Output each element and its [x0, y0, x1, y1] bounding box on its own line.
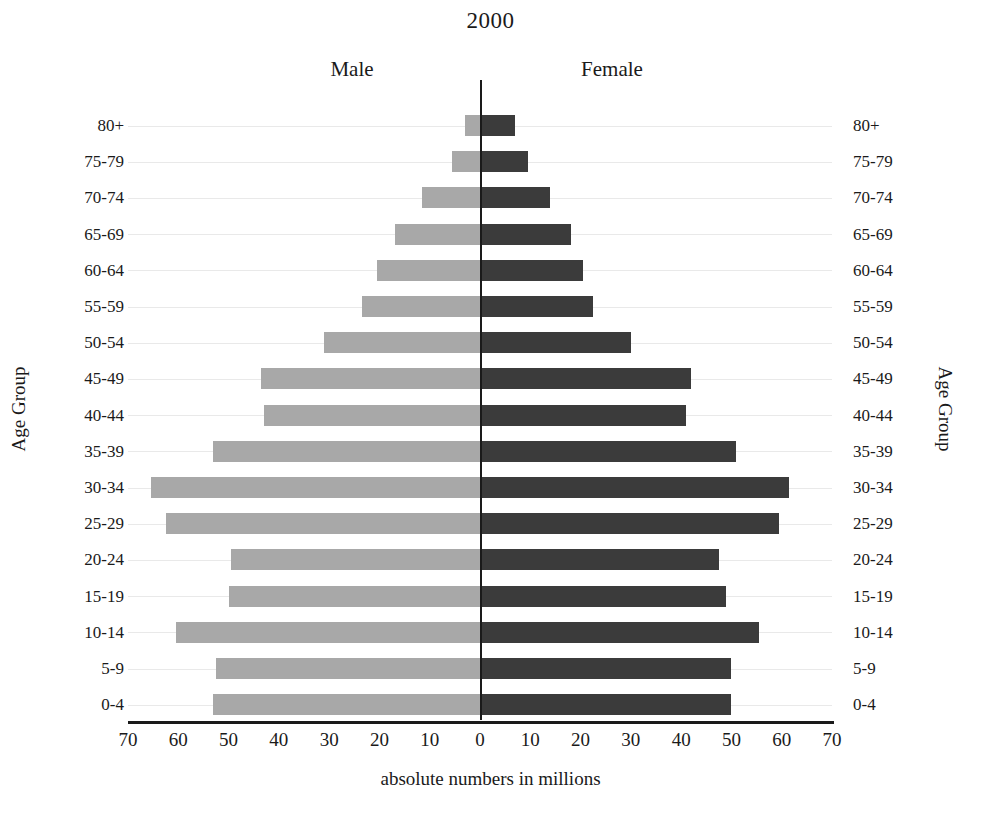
x-tick-label: 10 [505, 729, 555, 751]
bar-male-10-14 [176, 622, 480, 643]
category-label-left-75-79: 75-79 [84, 153, 124, 170]
category-label-right-10-14: 10-14 [853, 624, 893, 641]
bar-female-45-49 [480, 368, 691, 389]
category-label-right-30-34: 30-34 [853, 479, 893, 496]
bar-female-10-14 [480, 622, 759, 643]
category-label-right-45-49: 45-49 [853, 370, 893, 387]
x-tick-label: 40 [254, 729, 304, 751]
bar-female-20-24 [480, 549, 719, 570]
bar-male-40-44 [264, 405, 480, 426]
x-tick-label: 30 [606, 729, 656, 751]
category-label-left-70-74: 70-74 [84, 189, 124, 206]
bar-male-60-64 [377, 260, 480, 281]
bar-male-50-54 [324, 332, 480, 353]
category-label-left-40-44: 40-44 [84, 407, 124, 424]
category-label-left-20-24: 20-24 [84, 551, 124, 568]
bar-female-55-59 [480, 296, 593, 317]
bar-male-65-69 [395, 224, 480, 245]
bar-male-55-59 [362, 296, 480, 317]
series-header-male: Male [272, 57, 432, 82]
category-label-right-25-29: 25-29 [853, 515, 893, 532]
bar-female-30-34 [480, 477, 789, 498]
x-tick-label: 50 [204, 729, 254, 751]
x-axis-line [128, 721, 834, 724]
category-label-right-5-9: 5-9 [853, 660, 876, 677]
category-label-left-30-34: 30-34 [84, 479, 124, 496]
x-axis-title: absolute numbers in millions [0, 768, 981, 790]
x-tick-label: 70 [103, 729, 153, 751]
category-label-right-80+: 80+ [853, 117, 880, 134]
bar-male-45-49 [261, 368, 480, 389]
x-tick-label: 30 [304, 729, 354, 751]
category-label-left-10-14: 10-14 [84, 624, 124, 641]
bar-male-35-39 [213, 441, 480, 462]
category-label-right-60-64: 60-64 [853, 262, 893, 279]
category-label-right-15-19: 15-19 [853, 588, 893, 605]
bar-male-80+ [465, 115, 480, 136]
x-tick-label: 60 [757, 729, 807, 751]
category-label-right-0-4: 0-4 [853, 696, 876, 713]
bar-male-15-19 [229, 586, 480, 607]
category-label-left-25-29: 25-29 [84, 515, 124, 532]
category-label-right-65-69: 65-69 [853, 226, 893, 243]
category-label-left-0-4: 0-4 [101, 696, 124, 713]
x-tick-label: 10 [405, 729, 455, 751]
chart-title: 2000 [0, 8, 981, 34]
bar-female-60-64 [480, 260, 583, 281]
bar-male-0-4 [213, 694, 480, 715]
bar-male-30-34 [151, 477, 480, 498]
category-label-right-20-24: 20-24 [853, 551, 893, 568]
bar-male-5-9 [216, 658, 480, 679]
x-tick-label: 70 [807, 729, 857, 751]
bar-female-70-74 [480, 187, 550, 208]
bar-female-35-39 [480, 441, 736, 462]
bar-female-0-4 [480, 694, 731, 715]
category-label-left-65-69: 65-69 [84, 226, 124, 243]
y-axis-title-left: Age Group [8, 349, 30, 469]
y-axis-title-right: Age Group [934, 349, 956, 469]
category-label-left-5-9: 5-9 [101, 660, 124, 677]
bar-female-40-44 [480, 405, 686, 426]
category-label-left-15-19: 15-19 [84, 588, 124, 605]
category-label-left-60-64: 60-64 [84, 262, 124, 279]
bar-female-15-19 [480, 586, 726, 607]
category-label-right-50-54: 50-54 [853, 334, 893, 351]
center-axis-line [480, 80, 482, 720]
series-header-female: Female [532, 57, 692, 82]
bar-female-65-69 [480, 224, 571, 245]
bar-male-20-24 [231, 549, 480, 570]
bar-female-75-79 [480, 151, 528, 172]
category-label-left-45-49: 45-49 [84, 370, 124, 387]
x-tick-label: 40 [656, 729, 706, 751]
bar-female-5-9 [480, 658, 731, 679]
x-tick-label: 50 [706, 729, 756, 751]
category-label-right-40-44: 40-44 [853, 407, 893, 424]
bar-female-80+ [480, 115, 515, 136]
population-pyramid-chart: 2000 Male Female 80+80+75-7975-7970-7470… [0, 0, 981, 814]
x-tick-label: 60 [153, 729, 203, 751]
category-label-right-70-74: 70-74 [853, 189, 893, 206]
category-label-right-75-79: 75-79 [853, 153, 893, 170]
category-label-right-55-59: 55-59 [853, 298, 893, 315]
category-label-left-55-59: 55-59 [84, 298, 124, 315]
plot-area [128, 104, 832, 720]
category-label-right-35-39: 35-39 [853, 443, 893, 460]
bar-female-25-29 [480, 513, 779, 534]
category-label-left-50-54: 50-54 [84, 334, 124, 351]
x-tick-label: 20 [556, 729, 606, 751]
category-label-left-80+: 80+ [97, 117, 124, 134]
x-tick-label: 0 [455, 729, 505, 751]
category-label-left-35-39: 35-39 [84, 443, 124, 460]
bar-female-50-54 [480, 332, 631, 353]
x-tick-label: 20 [354, 729, 404, 751]
bar-male-75-79 [452, 151, 480, 172]
bar-male-70-74 [422, 187, 480, 208]
bar-male-25-29 [166, 513, 480, 534]
